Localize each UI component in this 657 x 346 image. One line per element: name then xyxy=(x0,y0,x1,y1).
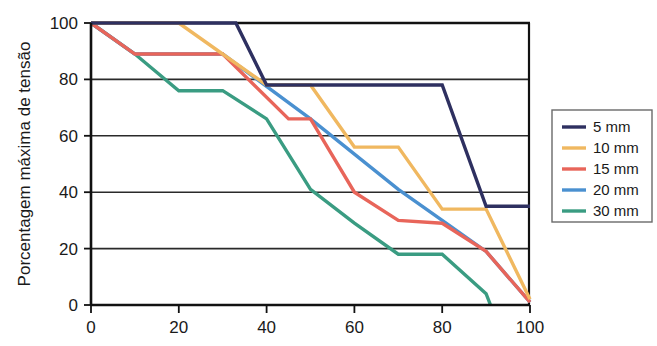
y-tick-label-20: 20 xyxy=(59,240,78,259)
legend-label-10mm: 10 mm xyxy=(593,139,639,156)
x-tick-label-100: 100 xyxy=(516,318,544,337)
x-tick-label-40: 40 xyxy=(257,318,276,337)
legend-label-5mm: 5 mm xyxy=(593,118,631,135)
x-tick-label-20: 20 xyxy=(169,318,188,337)
line-chart: 100 80 60 40 20 0 0 20 40 60 80 100 Porc… xyxy=(0,0,657,346)
y-tick-label-60: 60 xyxy=(59,127,78,146)
x-tick-label-60: 60 xyxy=(345,318,364,337)
x-tick-label-80: 80 xyxy=(433,318,452,337)
y-tick-label-40: 40 xyxy=(59,183,78,202)
chart-page: 100 80 60 40 20 0 0 20 40 60 80 100 Porc… xyxy=(0,0,657,346)
y-tick-label-0: 0 xyxy=(69,296,78,315)
y-tick-label-80: 80 xyxy=(59,70,78,89)
legend-label-20mm: 20 mm xyxy=(593,181,639,198)
legend-label-15mm: 15 mm xyxy=(593,160,639,177)
y-axis-title: Porcentagem máxima de tensão xyxy=(15,42,34,287)
y-tick-label-100: 100 xyxy=(50,14,78,33)
legend: 5 mm 10 mm 15 mm 20 mm 30 mm xyxy=(552,110,652,222)
legend-label-30mm: 30 mm xyxy=(593,202,639,219)
x-tick-label-0: 0 xyxy=(86,318,95,337)
